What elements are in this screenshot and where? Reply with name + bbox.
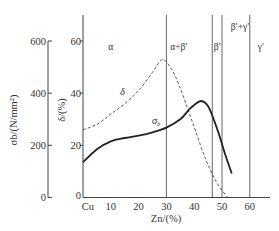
x-axis-title: Zn/(%) [151,213,182,225]
phase-labels: αα+β′β′β′+γ′γ′ [108,22,264,52]
phase-label: α+β′ [170,42,187,52]
left-axis-title: σb/(N/mm²) [8,94,20,145]
phase-label: β′ [214,42,221,52]
x-axis-tick-label: 30 [161,201,172,212]
left-axis-tick-label: 400 [30,88,46,99]
right-axis-title: δ/(%) [56,98,68,122]
sigma-curve-label: σb [152,115,160,127]
right-axis-tick-label: 0 [76,190,81,201]
x-axis: Cu102030405060 [82,198,270,213]
sigma-strength-curve [83,101,232,174]
x-axis-tick-label: 10 [106,201,117,212]
chart-canvas: 0200400600 0204060 Cu102030405060 αα+β′β… [0,0,279,231]
right-axis-tick-label: 60 [71,36,82,47]
phase-label: β′+γ′ [231,22,250,32]
left-axis-tick-label: 200 [30,140,46,151]
right-y-axis: 0204060 [71,15,84,201]
x-axis-tick-label: Cu [82,201,95,212]
x-axis-tick-label: 40 [189,201,200,212]
phase-label: α [108,42,113,52]
x-axis-tick-label: 50 [217,201,228,212]
left-y-axis: 0200400600 [30,36,52,204]
x-axis-tick-label: 60 [245,201,256,212]
right-axis-tick-label: 20 [71,140,82,151]
delta-curve-label: δ [120,86,126,97]
right-axis-tick-label: 40 [71,88,82,99]
x-axis-tick-label: 20 [133,201,144,212]
phase-label: γ′ [257,42,264,52]
left-axis-tick-label: 0 [41,192,46,203]
left-axis-tick-label: 600 [30,36,46,47]
delta-elongation-curve [83,60,228,198]
